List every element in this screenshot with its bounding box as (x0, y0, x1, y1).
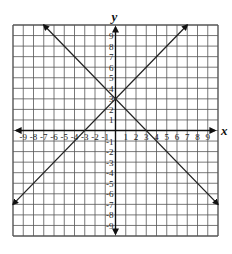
y-tick-label: 5 (109, 73, 114, 83)
y-tick-label: -2 (106, 147, 114, 157)
x-tick-label: -9 (20, 132, 28, 142)
coordinate-plane: -9-8-7-6-5-4-3-2-1123456789-9-8-7-6-5-4-… (0, 0, 232, 254)
x-tick-label: -7 (40, 132, 48, 142)
x-tick-label: 8 (195, 132, 200, 142)
x-tick-label: -8 (30, 132, 38, 142)
x-tick-label: -6 (50, 132, 58, 142)
y-tick-label: 7 (109, 52, 114, 62)
x-tick-label: 2 (134, 132, 139, 142)
x-tick-label: 5 (165, 132, 170, 142)
y-tick-label: -1 (106, 137, 114, 147)
y-tick-label: 1 (109, 115, 114, 125)
y-tick-label: 8 (109, 42, 114, 52)
y-tick-label: -4 (106, 168, 114, 178)
plotted-line (13, 25, 187, 204)
y-tick-label: 2 (109, 105, 114, 115)
y-tick-label: -9 (106, 221, 114, 231)
plotted-line (44, 25, 218, 204)
y-axis-label: y (110, 9, 118, 24)
x-tick-label: 1 (124, 132, 129, 142)
axes (16, 27, 215, 234)
y-tick-label: 6 (109, 63, 114, 73)
x-tick-label: 9 (206, 132, 211, 142)
x-tick-label: 7 (185, 132, 190, 142)
x-tick-label: -5 (61, 132, 69, 142)
y-tick-label: -7 (106, 200, 114, 210)
x-tick-label: -2 (91, 132, 99, 142)
y-tick-label: -5 (106, 179, 114, 189)
y-tick-label: -8 (106, 210, 114, 220)
y-tick-label: 9 (109, 31, 114, 41)
x-axis-label: x (220, 123, 228, 138)
y-tick-label: -6 (106, 189, 114, 199)
y-tick-label: -3 (106, 158, 114, 168)
x-tick-label: 6 (175, 132, 180, 142)
